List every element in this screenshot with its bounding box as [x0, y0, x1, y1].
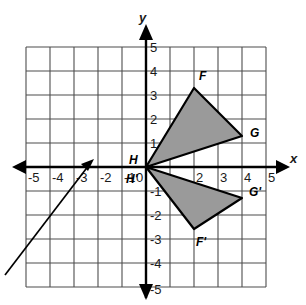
- vertex-label-G-prime: G': [249, 185, 262, 199]
- x-tick-label--4: -4: [52, 170, 64, 185]
- y-tick-label--3: -3: [150, 232, 162, 247]
- y-tick-label--4: -4: [150, 256, 162, 271]
- y-axis-top-arrowhead: [139, 24, 153, 40]
- y-tick-label-3: 3: [150, 88, 157, 103]
- vertex-label-F-prime: F': [196, 235, 207, 249]
- x-axis-left-arrowhead: [12, 160, 26, 174]
- y-tick-label-5: 5: [150, 40, 157, 55]
- x-tick-label-4: 4: [244, 170, 251, 185]
- x-tick-label-3: 3: [220, 170, 227, 185]
- x-tick-label--2: -2: [100, 170, 112, 185]
- coordinate-geometry-figure: y x -5 -4 -3 -2 -1 0 2 3 4 5 5 4 3 2 1 -…: [0, 0, 306, 305]
- y-axis-label: y: [138, 10, 147, 25]
- vertex-label-H-prime: H': [126, 172, 139, 186]
- y-tick-label-4: 4: [150, 64, 157, 79]
- y-tick-label--2: -2: [150, 208, 162, 223]
- vertex-label-H: H: [129, 153, 138, 167]
- x-axis-right-arrowhead: [276, 160, 290, 174]
- x-tick-label-5: 5: [268, 170, 275, 185]
- vertex-label-F: F: [199, 69, 207, 83]
- x-tick-label--5: -5: [28, 170, 40, 185]
- y-tick-label-2: 2: [150, 112, 157, 127]
- x-tick-label--3: -3: [76, 170, 88, 185]
- vertex-label-G: G: [250, 126, 259, 140]
- y-tick-label--5: -5: [150, 282, 162, 297]
- coordinate-plane: y x -5 -4 -3 -2 -1 0 2 3 4 5 5 4 3 2 1 -…: [0, 0, 306, 305]
- x-axis-label: x: [289, 151, 298, 166]
